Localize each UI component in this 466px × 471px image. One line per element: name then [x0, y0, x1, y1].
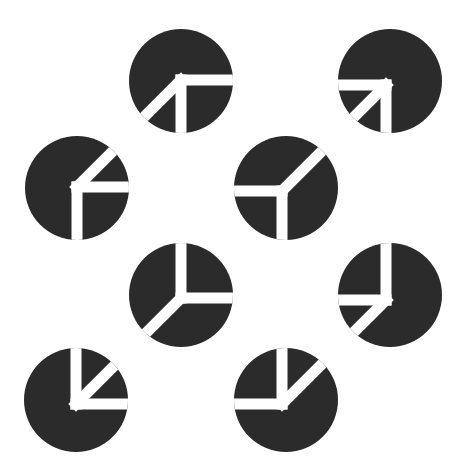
circles-diagram: [0, 0, 466, 471]
